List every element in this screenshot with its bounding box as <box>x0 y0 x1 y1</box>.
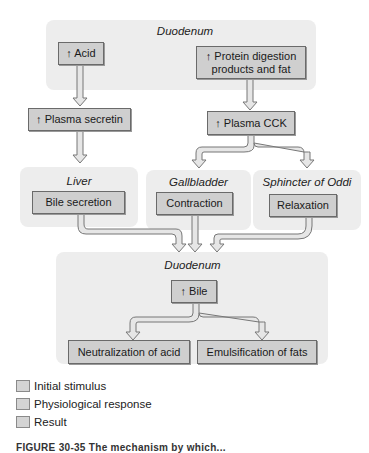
legend-initial-stimulus: Initial stimulus <box>16 380 106 392</box>
cck-box: ↑ Plasma CCK <box>207 111 295 135</box>
legend-physiological-response: Physiological response <box>16 398 152 410</box>
bile-box: ↑ Bile <box>171 280 217 303</box>
emulsification-box: Emulsification of fats <box>197 340 317 364</box>
legend-swatch-icon <box>16 398 30 410</box>
legend-swatch-icon <box>16 416 30 428</box>
figure-caption: FIGURE 30-35 The mechanism by which... <box>16 442 226 453</box>
protein-box: ↑ Protein digestion products and fat <box>196 46 306 79</box>
legend-label: Physiological response <box>34 398 152 410</box>
relaxation-box: Relaxation <box>269 194 337 217</box>
legend-label: Result <box>34 416 67 428</box>
bile-secretion-box: Bile secretion <box>32 191 125 214</box>
contraction-box: Contraction <box>156 192 233 215</box>
secretin-box: ↑ Plasma secretin <box>28 108 131 131</box>
legend-label: Initial stimulus <box>34 380 106 392</box>
acid-box: ↑ Acid <box>58 42 104 65</box>
legend-result: Result <box>16 416 67 428</box>
neutralization-box: Neutralization of acid <box>68 340 190 364</box>
legend-swatch-icon <box>16 380 30 392</box>
